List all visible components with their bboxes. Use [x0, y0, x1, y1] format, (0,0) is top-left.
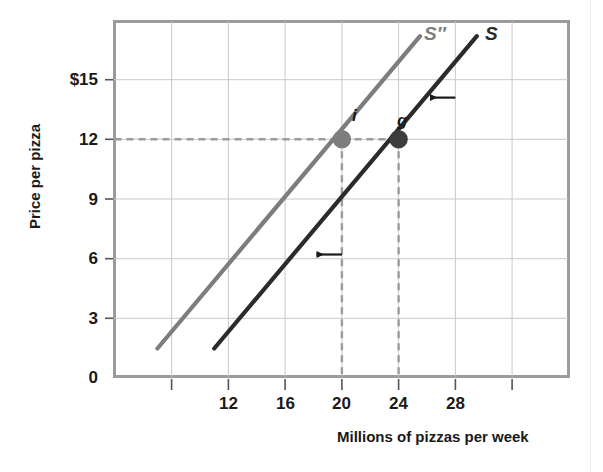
reference-lines [115, 139, 399, 376]
point-label-i: i [352, 107, 357, 124]
y-tick-label-15: $15 [46, 71, 98, 88]
point-g-marker [389, 130, 407, 148]
x-tick-label-24: 24 [371, 395, 426, 412]
y-tick-label-9: 9 [46, 191, 98, 208]
y-tick-label-6: 6 [46, 250, 98, 267]
point-i-marker [333, 130, 351, 148]
y-tick-label-12: 12 [46, 131, 98, 148]
y-axis-title: Price per pizza [26, 97, 43, 257]
x-axis-title: Millions of pizzas per week [337, 428, 529, 445]
curve-label-s-double-prime: S″ [424, 24, 446, 43]
curve-s-double-prime [157, 36, 420, 348]
curve-label-s: S [485, 24, 498, 43]
x-tick-label-28: 28 [428, 395, 483, 412]
y-axis-ticks [105, 80, 113, 319]
supply-curve-figure: $15 12 9 6 3 0 12 16 20 24 28 Price per … [0, 0, 603, 472]
x-tick-label-16: 16 [258, 395, 313, 412]
shift-arrows [317, 98, 456, 255]
y-tick-label-3: 3 [46, 310, 98, 327]
curve-s [214, 36, 477, 348]
y-tick-label-0: 0 [46, 369, 98, 386]
x-tick-label-20: 20 [314, 395, 369, 412]
x-tick-label-12: 12 [201, 395, 256, 412]
point-label-g: g [397, 112, 407, 129]
x-axis-ticks [172, 379, 512, 390]
